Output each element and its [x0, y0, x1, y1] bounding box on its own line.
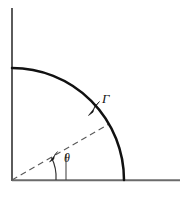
diagram-svg — [0, 0, 186, 197]
contour-label-gamma: Γ — [102, 92, 109, 105]
figure-canvas: Γ θ — [0, 0, 186, 197]
angle-label-theta: θ — [64, 152, 70, 164]
angle-arc-theta — [52, 158, 57, 181]
dashed-radius-line — [12, 124, 109, 180]
angle-arc-arrowhead — [50, 152, 58, 163]
